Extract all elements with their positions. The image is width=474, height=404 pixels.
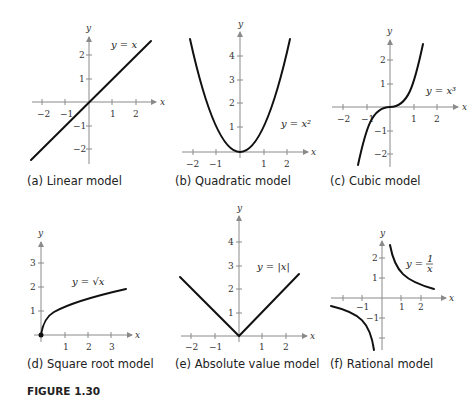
svg-text:x: x xyxy=(449,293,454,303)
svg-text:−2: −2 xyxy=(73,144,86,154)
chart-linear: −2−1 12 21 −1−2 xy y = x xyxy=(31,23,165,164)
svg-text:x: x xyxy=(310,331,315,341)
svg-text:−2: −2 xyxy=(186,159,199,169)
svg-text:1: 1 xyxy=(259,342,265,352)
svg-text:y: y xyxy=(37,228,44,238)
svg-text:−1: −1 xyxy=(356,302,369,312)
svg-text:4: 4 xyxy=(228,237,234,247)
svg-text:1: 1 xyxy=(228,308,234,318)
svg-text:2: 2 xyxy=(372,253,378,263)
svg-text:2: 2 xyxy=(228,284,234,294)
svg-text:1: 1 xyxy=(63,342,69,352)
caption-square-root: (d) Square root model xyxy=(27,357,154,371)
figure-label: FIGURE 1.30 xyxy=(27,385,100,397)
chart-rational: −1 12 21 −1 xy y = 1 x xyxy=(331,228,454,350)
chart-absolute-value: −2−1 12 12 34 xy y = |x| xyxy=(180,203,315,352)
svg-text:−2: −2 xyxy=(37,109,50,119)
caption-cubic: (c) Cubic model xyxy=(330,174,421,188)
svg-text:−1: −1 xyxy=(366,313,379,323)
svg-text:−2: −2 xyxy=(374,149,387,159)
svg-text:y =: y = xyxy=(405,258,423,269)
svg-text:1: 1 xyxy=(372,273,378,283)
caption-quadratic: (b) Quadratic model xyxy=(175,174,291,188)
svg-text:1: 1 xyxy=(399,302,405,312)
svg-text:−1: −1 xyxy=(209,342,222,352)
svg-text:2: 2 xyxy=(284,159,290,169)
svg-text:1: 1 xyxy=(229,122,235,132)
svg-text:2: 2 xyxy=(79,50,85,60)
equation-absolute-value: y = |x| xyxy=(256,261,290,273)
svg-text:2: 2 xyxy=(86,342,92,352)
svg-text:3: 3 xyxy=(30,258,36,268)
svg-text:1: 1 xyxy=(380,79,386,89)
svg-text:−1: −1 xyxy=(60,109,73,119)
svg-text:2: 2 xyxy=(380,55,386,65)
caption-absolute-value: (e) Absolute value model xyxy=(175,357,320,371)
svg-text:y: y xyxy=(237,19,244,29)
caption-rational: (f) Rational model xyxy=(330,357,433,371)
svg-text:x: x xyxy=(160,97,165,107)
svg-text:x: x xyxy=(427,263,433,274)
svg-text:−1: −1 xyxy=(209,159,222,169)
figure-canvas: −2−1 12 21 −1−2 xy y = x −2−1 12 12 34 x… xyxy=(0,0,474,404)
svg-text:1: 1 xyxy=(411,114,417,124)
svg-text:3: 3 xyxy=(228,261,234,271)
svg-text:1: 1 xyxy=(110,109,116,119)
svg-text:y: y xyxy=(386,26,393,36)
svg-text:y: y xyxy=(236,203,243,213)
svg-text:2: 2 xyxy=(418,302,424,312)
svg-text:2: 2 xyxy=(229,98,235,108)
svg-text:3: 3 xyxy=(109,342,115,352)
equation-linear: y = x xyxy=(110,39,137,50)
svg-text:y: y xyxy=(85,23,92,33)
svg-text:1: 1 xyxy=(261,159,267,169)
svg-text:2: 2 xyxy=(133,109,139,119)
svg-text:−2: −2 xyxy=(185,342,198,352)
svg-text:3: 3 xyxy=(229,75,235,85)
svg-text:x: x xyxy=(311,147,316,157)
svg-text:1: 1 xyxy=(30,306,36,316)
svg-text:x: x xyxy=(135,330,140,340)
svg-text:−1: −1 xyxy=(73,121,86,131)
svg-text:2: 2 xyxy=(283,342,289,352)
svg-text:2: 2 xyxy=(434,114,440,124)
svg-text:4: 4 xyxy=(229,51,235,61)
svg-text:−2: −2 xyxy=(337,114,350,124)
chart-square-root: 12 3 12 3 xy y = √x xyxy=(30,228,140,352)
equation-quadratic: y = x² xyxy=(280,118,311,129)
caption-linear: (a) Linear model xyxy=(27,174,122,188)
equation-rational: y = 1 x xyxy=(405,253,433,274)
equation-cubic: y = x³ xyxy=(425,85,456,96)
svg-text:1: 1 xyxy=(79,74,85,84)
svg-text:2: 2 xyxy=(30,282,36,292)
svg-text:y: y xyxy=(379,228,386,238)
chart-cubic: −2−1 12 21 −1−2 xy y = x³ xyxy=(332,26,467,167)
svg-text:x: x xyxy=(462,102,467,112)
chart-quadratic: −2−1 12 12 34 xy y = x² xyxy=(182,19,316,169)
svg-text:−1: −1 xyxy=(374,126,387,136)
equation-square-root: y = √x xyxy=(71,276,105,287)
